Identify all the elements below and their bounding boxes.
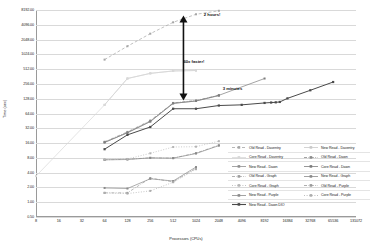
chart-legend: Old Read - DaventryNew Read - DaventryCo…: [228, 142, 370, 220]
data-point-marker: [218, 145, 220, 147]
series-line: [105, 82, 334, 149]
series-line: [105, 146, 219, 160]
data-point-marker: [172, 108, 174, 110]
annotation-0: 2 hours!: [204, 12, 221, 17]
x-tick-label: 64: [103, 219, 107, 223]
series-7: [104, 145, 220, 161]
legend-swatch-icon: [304, 155, 318, 160]
data-point-marker: [172, 102, 174, 104]
y-tick-label: 2.00: [27, 185, 34, 189]
chart-container: 8192.004096.002048.001024.00512.00256.00…: [0, 0, 372, 248]
series-11: [104, 168, 197, 194]
data-point-marker: [195, 146, 197, 148]
data-point-marker: [149, 178, 151, 180]
data-point-marker: [104, 192, 106, 194]
legend-label: Core Read - Purple: [321, 193, 351, 197]
x-tick-label: 1024: [192, 219, 200, 223]
data-point-marker: [149, 152, 151, 154]
series-8: [104, 140, 220, 160]
y-axis-title: Time (sec): [2, 100, 7, 118]
data-point-marker: [218, 104, 220, 106]
data-point-marker: [286, 97, 288, 99]
legend-label: Old Read - Dawn: [321, 155, 348, 159]
legend-label: New Read - Dawn DIO: [249, 203, 285, 207]
legend-label: Core Read - Dawn: [321, 165, 350, 169]
x-axis-title: Processors (CPUs): [0, 236, 372, 241]
data-point-marker: [172, 181, 174, 183]
series-line: [105, 145, 219, 160]
data-point-marker: [126, 193, 128, 195]
y-tick-label: 8.00: [27, 156, 34, 160]
legend-separator: [228, 161, 370, 162]
annotation-2: 3 minutes: [223, 86, 243, 91]
legend-item[interactable]: New Read - Dawn DIO: [232, 200, 285, 209]
x-tick-label: 512: [170, 219, 176, 223]
data-point-marker: [218, 94, 220, 96]
legend-separator: [228, 152, 370, 153]
x-tick-label: 256: [147, 219, 153, 223]
y-tick-label: 64.00: [25, 112, 34, 116]
x-tick-label: 32: [80, 219, 84, 223]
series-line: [105, 141, 219, 159]
y-tick-label: 512.00: [23, 67, 34, 71]
legend-separator: [228, 190, 370, 191]
data-point-marker: [279, 101, 281, 103]
legend-label: Core Read - Graph: [249, 184, 279, 188]
data-point-marker: [126, 132, 128, 134]
data-point-marker: [35, 175, 37, 177]
data-point-marker: [195, 13, 197, 15]
data-point-marker: [195, 168, 197, 170]
legend-label: New Read - Daventry: [321, 146, 354, 150]
data-point-marker: [126, 158, 128, 160]
y-tick-label: 16.00: [25, 141, 34, 145]
series-line: [36, 71, 196, 177]
legend-label: Old Read - Purple: [321, 184, 349, 188]
legend-label: New Read - Graph: [321, 174, 350, 178]
series-line: [105, 168, 196, 193]
data-point-marker: [218, 140, 220, 142]
y-tick-label: 128.00: [23, 97, 34, 101]
data-point-marker: [172, 70, 174, 72]
legend-label: Old Read - Daventry: [249, 146, 281, 150]
data-point-marker: [195, 108, 197, 110]
legend-swatch-icon: [232, 183, 246, 188]
legend-swatch-icon: [232, 193, 246, 198]
legend-swatch-icon: [232, 202, 246, 207]
data-point-marker: [149, 33, 151, 35]
series-line: [105, 71, 196, 105]
data-point-marker: [103, 148, 105, 150]
legend-swatch-icon: [304, 193, 318, 198]
data-point-marker: [195, 70, 197, 72]
y-tick-label: 0.50: [27, 215, 34, 219]
legend-swatch-icon: [304, 183, 318, 188]
y-tick-label: 1.00: [27, 200, 34, 204]
y-tick-label: 256.00: [23, 82, 34, 86]
y-tick-label: 32.00: [25, 126, 34, 130]
legend-label: New Read - Dawn: [249, 165, 277, 169]
data-point-marker: [263, 102, 265, 104]
data-point-marker: [149, 190, 151, 192]
data-point-marker: [172, 157, 174, 159]
x-tick-label: 16: [57, 219, 61, 223]
data-point-marker: [195, 100, 197, 102]
legend-swatch-icon: [232, 155, 246, 160]
data-point-marker: [104, 159, 106, 161]
data-point-marker: [149, 120, 151, 122]
series-9: [104, 167, 197, 194]
x-tick-label: 2048: [215, 219, 223, 223]
data-point-marker: [104, 104, 106, 106]
legend-separator: [228, 171, 370, 172]
y-tick-label: 2048.00: [21, 38, 34, 42]
data-point-marker: [309, 89, 311, 91]
data-point-marker: [270, 101, 272, 103]
legend-swatch-icon: [304, 145, 318, 150]
data-point-marker: [172, 146, 174, 148]
series-0: [104, 10, 220, 61]
legend-label: Old Read - Graph: [249, 174, 277, 178]
data-point-marker: [275, 101, 277, 103]
legend-label: New Read - Purple: [249, 193, 279, 197]
data-point-marker: [126, 45, 128, 47]
series-10: [104, 166, 197, 189]
double-arrow-annotation: [179, 16, 187, 101]
legend-swatch-icon: [232, 164, 246, 169]
